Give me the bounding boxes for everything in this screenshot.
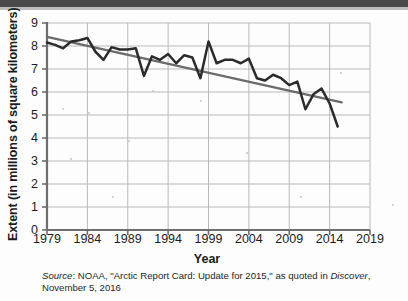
scan-speck (246, 152, 248, 154)
source-text-1: : NOAA, "Arctic Report Card: Update for … (72, 270, 330, 281)
data-series-line (47, 38, 338, 127)
scan-speck (70, 158, 72, 160)
source-note: Source: NOAA, "Arctic Report Card: Updat… (42, 270, 402, 294)
scan-speck (152, 90, 154, 92)
x-axis-title: Year (43, 252, 371, 266)
scan-speck (128, 140, 130, 142)
chart-figure: Extent (in millions of square kilometers… (0, 0, 408, 301)
scan-speck (56, 236, 58, 238)
scan-artifact-band (0, 0, 408, 7)
scan-speck (62, 108, 64, 110)
source-label: Source (42, 270, 72, 281)
scan-speck (300, 196, 302, 198)
source-publication: Discover (330, 270, 367, 281)
scan-speck (112, 196, 114, 198)
scan-speck (392, 204, 394, 206)
grid-lines (47, 23, 370, 230)
scan-speck (200, 100, 202, 102)
scan-speck (340, 72, 342, 74)
scan-speck (88, 112, 90, 114)
plot-area (0, 8, 408, 256)
